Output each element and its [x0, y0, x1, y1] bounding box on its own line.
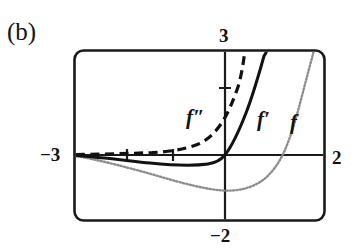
- curve-label-f-prime: f′: [257, 109, 270, 130]
- curve-label-f: f: [290, 112, 297, 133]
- screen-frame: [75, 51, 325, 221]
- x-max-label: 2: [332, 148, 342, 167]
- curve-label-f-double-prime: f″: [186, 107, 205, 128]
- x-min-label: −3: [40, 145, 60, 164]
- y-min-label: −2: [210, 226, 230, 245]
- y-max-label: 3: [219, 26, 229, 45]
- figure-panel: (b) 3 −2 −3: [0, 0, 355, 248]
- graphing-calculator-screen: [0, 0, 355, 248]
